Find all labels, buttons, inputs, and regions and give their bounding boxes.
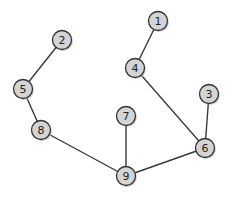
graph-canvas: 123456789 bbox=[0, 0, 233, 197]
node-label: 3 bbox=[206, 88, 213, 101]
node-6: 6 bbox=[196, 139, 217, 160]
graph-diagram: 123456789 bbox=[0, 0, 233, 197]
node-label: 6 bbox=[202, 142, 209, 155]
node-9: 9 bbox=[117, 167, 138, 188]
node-label: 1 bbox=[155, 15, 162, 28]
node-label: 8 bbox=[38, 124, 45, 137]
node-label: 7 bbox=[123, 110, 130, 123]
node-3: 3 bbox=[200, 85, 221, 106]
node-label: 4 bbox=[132, 62, 139, 75]
edge-9-6 bbox=[126, 148, 205, 176]
node-1: 1 bbox=[149, 12, 170, 33]
node-5: 5 bbox=[14, 80, 35, 101]
node-label: 5 bbox=[20, 83, 27, 96]
node-label: 9 bbox=[123, 170, 130, 183]
edge-8-9 bbox=[41, 130, 126, 176]
node-4: 4 bbox=[126, 59, 147, 80]
node-7: 7 bbox=[117, 107, 138, 128]
node-label: 2 bbox=[59, 34, 66, 47]
nodes: 123456789 bbox=[14, 12, 221, 188]
edge-4-6 bbox=[135, 68, 205, 148]
edges bbox=[23, 21, 209, 176]
node-8: 8 bbox=[32, 121, 53, 142]
